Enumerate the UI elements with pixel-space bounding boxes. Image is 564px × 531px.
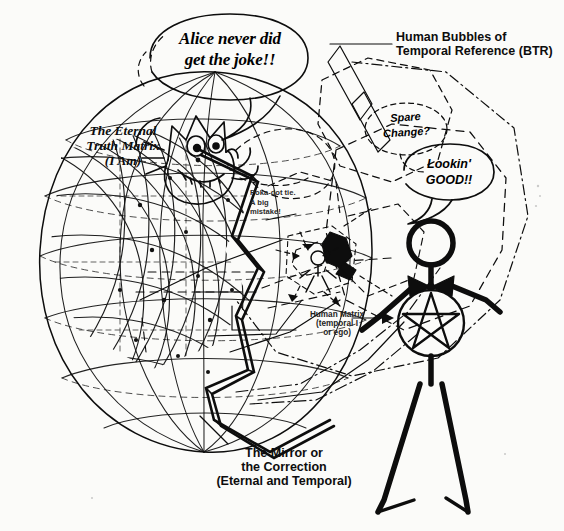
- mirror-label: The Mirror or the Correction (Eternal an…: [205, 446, 363, 488]
- alice-bubble-text: Alice never did get the joke!!: [155, 28, 305, 71]
- stick-figure-feet: [378, 498, 468, 512]
- human-matrix-label: Human Matrix (temporal I or ego): [298, 310, 376, 338]
- spare-change-text: Spare Change?: [371, 108, 441, 142]
- lookin-good-text: Lookin' GOOD!!: [412, 157, 486, 188]
- pentagram-body: [398, 290, 464, 356]
- stick-figure: [362, 221, 500, 512]
- btr-label: Human Bubbles of Temporal Reference (BTR…: [396, 30, 564, 58]
- polka-dot-note: Poka-dot tie. A big mistake!: [250, 188, 320, 217]
- eternal-truth-matrix-label: The Eternal Truth Matrix (I Am): [58, 123, 188, 168]
- diagram-canvas: Alice never did get the joke!! Human Bub…: [0, 0, 564, 531]
